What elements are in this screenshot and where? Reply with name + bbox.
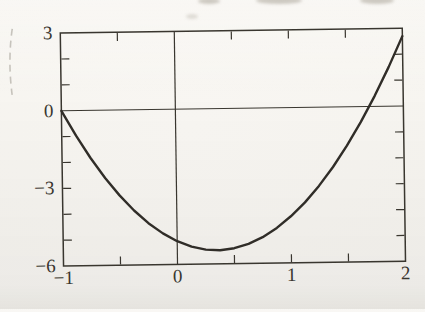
x-tick-label: 1: [275, 264, 309, 286]
plot-canvas: [0, 0, 425, 312]
scan-artifact-line: [9, 29, 13, 95]
x-tick-label: 2: [389, 262, 423, 284]
scanned-plot-figure: 30−3−6 −1012: [0, 0, 425, 312]
x-tick-label: 0: [161, 265, 195, 287]
x-axis-line: [61, 106, 403, 111]
y-tick-label: 0: [15, 100, 53, 123]
x-tick-label: −1: [47, 267, 81, 289]
function-curve: [60, 36, 405, 252]
y-tick-label: 3: [14, 22, 52, 45]
y-axis-line: [174, 32, 177, 265]
y-tick-label: −3: [16, 178, 54, 201]
plot-frame: [60, 28, 405, 266]
